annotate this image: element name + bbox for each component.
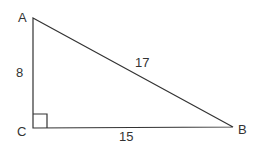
side-label-ac: 8 bbox=[16, 65, 23, 80]
side-label-cb: 15 bbox=[119, 129, 133, 144]
vertex-label-b: B bbox=[238, 122, 247, 137]
side-label-ab: 17 bbox=[135, 55, 149, 70]
triangle-diagram: A C B 8 17 15 bbox=[0, 0, 257, 152]
vertex-label-a: A bbox=[18, 10, 27, 25]
right-angle-marker bbox=[33, 114, 47, 128]
triangle-abc bbox=[33, 18, 233, 128]
triangle-svg: A C B 8 17 15 bbox=[0, 0, 257, 152]
vertex-label-c: C bbox=[17, 124, 26, 139]
